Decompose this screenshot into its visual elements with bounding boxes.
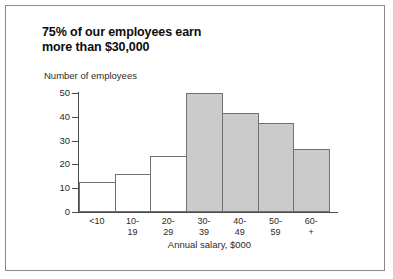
x-axis-label: Annual salary, $000	[6, 239, 393, 250]
x-axis-label-text: Annual salary, $000	[168, 239, 251, 250]
y-axis-tick-label: 30	[40, 136, 70, 146]
plot-area	[79, 93, 329, 212]
x-axis-tick-label: 10- 19	[115, 216, 151, 238]
y-axis-tick-label: 40	[40, 112, 70, 122]
y-axis-tick-label: 50	[40, 88, 70, 98]
x-axis-tick-label: 50- 59	[258, 216, 294, 238]
x-axis-tick-label: 40- 49	[222, 216, 258, 238]
y-axis-tick-label: 0	[40, 207, 70, 217]
bar-6	[293, 149, 330, 212]
bar-1	[115, 174, 152, 212]
bar-0	[79, 182, 116, 212]
x-axis-tick-label: <10	[79, 216, 115, 227]
x-axis-tick-label: 20- 29	[150, 216, 186, 238]
chart-title: 75% of our employees earn more than $30,…	[42, 25, 342, 54]
bar-5	[258, 123, 295, 212]
y-axis-tick-mark	[72, 164, 79, 165]
x-axis-line	[72, 212, 338, 213]
y-axis-tick-label: 20	[40, 159, 70, 169]
chart-figure: 75% of our employees earn more than $30,…	[0, 0, 393, 279]
y-axis-tick-mark	[72, 141, 79, 142]
bar-2	[150, 156, 187, 212]
y-axis-tick-mark	[72, 188, 79, 189]
chart-frame: 75% of our employees earn more than $30,…	[5, 5, 385, 271]
x-axis-tick-label: 30- 39	[186, 216, 222, 238]
bar-4	[222, 113, 259, 212]
y-axis-tick-label: 10	[40, 183, 70, 193]
x-axis-tick-label: 60- +	[293, 216, 329, 238]
y-axis-tick-mark	[72, 212, 79, 213]
y-axis-tick-mark	[72, 93, 79, 94]
y-axis-tick-mark	[72, 117, 79, 118]
bar-3	[186, 93, 223, 212]
